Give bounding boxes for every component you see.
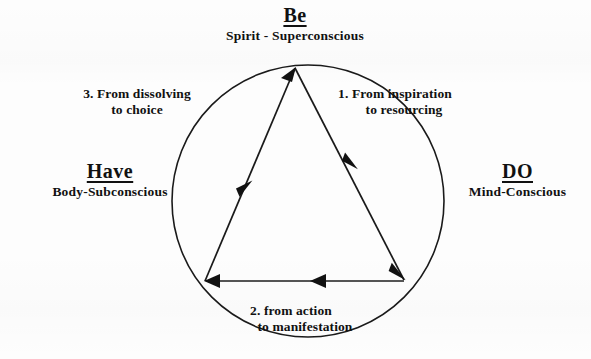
step-2-line-2: to manifestation [196,319,386,335]
arrowhead-at-be-vertex [281,67,296,82]
do-heading: DO [444,160,591,184]
step-1-line-2: to resourcing [320,102,470,118]
have-heading: Have [20,160,200,184]
be-subtitle: Spirit - Superconscious [195,28,395,44]
step-3-line-2: to choice [57,102,217,118]
step-2-line-1: 2. from action [250,303,332,318]
edge-have-to-be [205,68,295,281]
arrowhead-have-to-be-mid [236,180,253,198]
step-label-2: 2. from action to manifestation [196,303,386,335]
have-subtitle: Body-Subconscious [20,184,200,200]
arrowhead-do-to-have-mid [310,274,326,288]
diagram-canvas: Be Spirit - Superconscious Have Body-Sub… [0,0,591,359]
vertex-label-do: DO Mind-Conscious [444,160,591,200]
vertex-label-have: Have Body-Subconscious [20,160,200,200]
step-label-3: 3. From dissolving to choice [57,86,217,118]
vertex-label-be: Be Spirit - Superconscious [195,4,395,44]
be-heading: Be [195,4,395,28]
step-1-line-1: 1. From inspiration [338,86,452,101]
arrowhead-be-to-do-mid [341,151,358,170]
step-3-line-1: 3. From dissolving [83,86,191,101]
step-label-1: 1. From inspiration to resourcing [320,86,470,118]
do-subtitle: Mind-Conscious [444,184,591,200]
